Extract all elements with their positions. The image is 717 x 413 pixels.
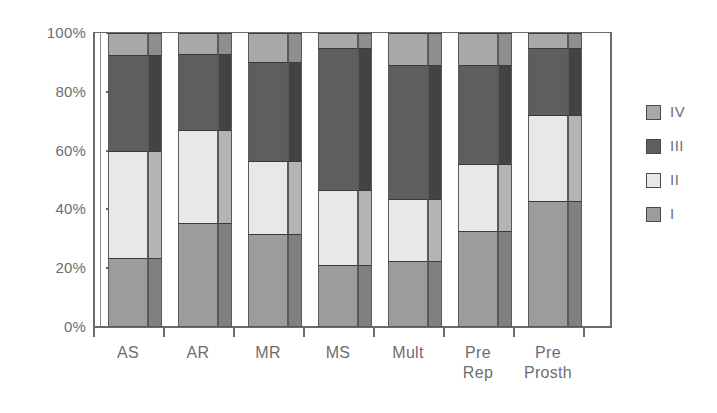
bar-side-face [498, 33, 512, 327]
bar-segment-side [358, 265, 372, 327]
bar-segment-front [528, 115, 568, 200]
chart-legend: IVIIIIII [646, 102, 712, 238]
bar-front-face [388, 33, 428, 327]
bar-segment-side [358, 190, 372, 265]
bar-group[interactable] [318, 33, 372, 327]
x-axis-tick-label: MR [233, 343, 303, 363]
legend-item-label: I [670, 204, 675, 224]
x-axis-tick-mark [583, 328, 585, 337]
bar-segment-side [218, 33, 232, 54]
bar-segment-side [148, 151, 162, 258]
bar-segment-side [428, 65, 442, 199]
legend-swatch-icon [646, 207, 661, 222]
bar-segment-front [458, 33, 498, 65]
x-axis-tick-label-line: Rep [443, 363, 513, 383]
x-axis-tick-label-line: Prosth [513, 363, 583, 383]
bar-segment-front [318, 265, 358, 327]
bar-segment-front [108, 55, 148, 151]
bar-segment-front [388, 261, 428, 327]
bar-segment-side [568, 115, 582, 200]
bar-segment-front [178, 223, 218, 327]
bar-segment-side [148, 258, 162, 327]
bar-group[interactable] [458, 33, 512, 327]
bar-front-face [528, 33, 568, 327]
bar-segment-side [148, 55, 162, 151]
y-axis-tick-label: 40% [26, 201, 86, 216]
bar-segment-front [178, 130, 218, 223]
x-axis-tick-label: AR [163, 343, 233, 363]
bar-segment-front [248, 234, 288, 327]
legend-item-label: IV [670, 102, 685, 122]
bar-segment-front [178, 33, 218, 54]
legend-swatch-icon [646, 139, 661, 154]
bar-segment-front [458, 65, 498, 163]
legend-item-label: II [670, 170, 679, 190]
bar-group[interactable] [108, 33, 162, 327]
bar-segment-front [458, 164, 498, 232]
bar-segment-front [108, 258, 148, 327]
bar-segment-front [528, 33, 568, 48]
bar-segment-front [108, 151, 148, 258]
bar-front-face [458, 33, 498, 327]
bar-front-face [318, 33, 358, 327]
bar-side-face [218, 33, 232, 327]
bar-segment-front [178, 54, 218, 130]
bar-segment-side [498, 231, 512, 327]
bar-group[interactable] [178, 33, 232, 327]
bar-segment-front [248, 62, 288, 160]
x-axis-tick-mark [233, 328, 235, 337]
bar-segment-front [528, 48, 568, 116]
legend-swatch-icon [646, 173, 661, 188]
legend-item[interactable]: III [646, 136, 712, 170]
bar-segment-front [528, 201, 568, 327]
bar-segment-side [498, 164, 512, 232]
x-axis-tick-label-line: MR [233, 343, 303, 363]
bar-segment-side [148, 33, 162, 55]
bar-segment-front [458, 231, 498, 327]
x-axis-tick-label-line: AR [163, 343, 233, 363]
bar-segment-side [428, 199, 442, 261]
y-axis-tick-label: 20% [26, 260, 86, 275]
x-axis-tick-label: PreRep [443, 343, 513, 383]
bar-side-face [148, 33, 162, 327]
bar-segment-front [248, 33, 288, 62]
plot-area [93, 33, 610, 327]
x-axis-tick-label-line: Pre [443, 343, 513, 363]
x-axis-tick-label-line: Mult [373, 343, 443, 363]
x-axis-tick-mark [373, 328, 375, 337]
bar-front-face [248, 33, 288, 327]
bar-segment-front [318, 48, 358, 191]
bar-segment-front [318, 190, 358, 265]
y-axis-tick-label: 0% [26, 319, 86, 334]
legend-item[interactable]: IV [646, 102, 712, 136]
bar-segment-side [568, 33, 582, 48]
bar-segment-front [318, 33, 358, 48]
bar-segment-side [218, 54, 232, 130]
bar-segment-side [288, 62, 302, 160]
bar-segment-side [568, 48, 582, 116]
bar-segment-side [288, 33, 302, 62]
legend-item[interactable]: I [646, 204, 712, 238]
right-frame-line [610, 32, 612, 328]
bar-segment-front [248, 161, 288, 235]
x-axis-tick-label: AS [93, 343, 163, 363]
bar-front-face [108, 33, 148, 327]
x-axis-tick-mark [93, 328, 95, 337]
bar-group[interactable] [248, 33, 302, 327]
bar-segment-side [498, 65, 512, 163]
x-axis-tick-label-line: MS [303, 343, 373, 363]
bar-segment-front [388, 33, 428, 65]
bar-side-face [358, 33, 372, 327]
y-axis-tick-label: 80% [26, 84, 86, 99]
bar-segment-side [218, 223, 232, 327]
bar-segment-side [428, 33, 442, 65]
legend-item[interactable]: II [646, 170, 712, 204]
x-axis-tick-label: Mult [373, 343, 443, 363]
x-axis-tick-label: PreProsth [513, 343, 583, 383]
bar-group[interactable] [388, 33, 442, 327]
bar-segment-front [388, 199, 428, 261]
bar-group[interactable] [528, 33, 582, 327]
stacked-bar-chart: 0%20%40%60%80%100% ASARMRMSMultPreRepPre… [0, 0, 717, 413]
x-axis-tick-label: MS [303, 343, 373, 363]
bar-segment-front [108, 33, 148, 55]
